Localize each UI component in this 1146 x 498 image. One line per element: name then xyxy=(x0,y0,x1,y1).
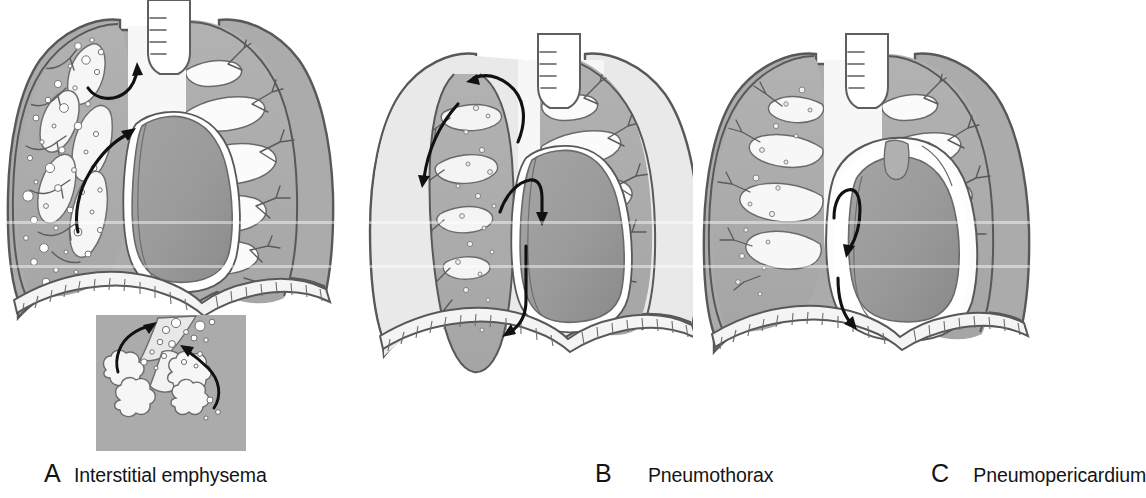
alveolar-rupture-inset xyxy=(96,315,246,451)
heart-group xyxy=(511,146,632,332)
great-vessels xyxy=(884,140,909,179)
heart-silhouette xyxy=(848,156,959,322)
left-lung-group xyxy=(707,52,826,332)
heart-silhouette xyxy=(520,150,624,322)
trachea-outline xyxy=(846,34,888,108)
caption-label-c: Pneumopericardium xyxy=(973,464,1146,487)
caption-row: A Interstitial emphysema B Pneumothorax … xyxy=(0,459,1037,498)
caption-letter-a: A xyxy=(44,459,61,488)
trachea-group xyxy=(148,0,190,74)
panel-pneumothorax xyxy=(348,0,693,460)
trachea-group xyxy=(538,34,580,108)
panel-pneumopericardium xyxy=(690,0,1037,460)
left-lung-group xyxy=(11,18,130,298)
caption-letter-c: C xyxy=(931,459,949,488)
caption-panel-b: B Pneumothorax xyxy=(595,459,774,488)
trachea-outline xyxy=(538,34,580,108)
trachea-outline xyxy=(148,0,190,74)
panel-c-illustration xyxy=(690,0,1037,460)
panel-b-illustration xyxy=(348,0,693,460)
panel-a-illustration xyxy=(0,0,350,460)
trachea-group xyxy=(846,34,888,108)
heart-group xyxy=(123,112,240,292)
caption-label-b: Pneumothorax xyxy=(648,464,774,487)
caption-panel-a: A Interstitial emphysema xyxy=(44,459,267,488)
panel-interstitial-emphysema xyxy=(0,0,350,460)
alveolar-cluster-center xyxy=(115,378,156,417)
caption-panel-c: C Pneumopericardium xyxy=(931,459,1146,488)
caption-label-a: Interstitial emphysema xyxy=(74,464,267,487)
caption-letter-b: B xyxy=(595,459,612,488)
